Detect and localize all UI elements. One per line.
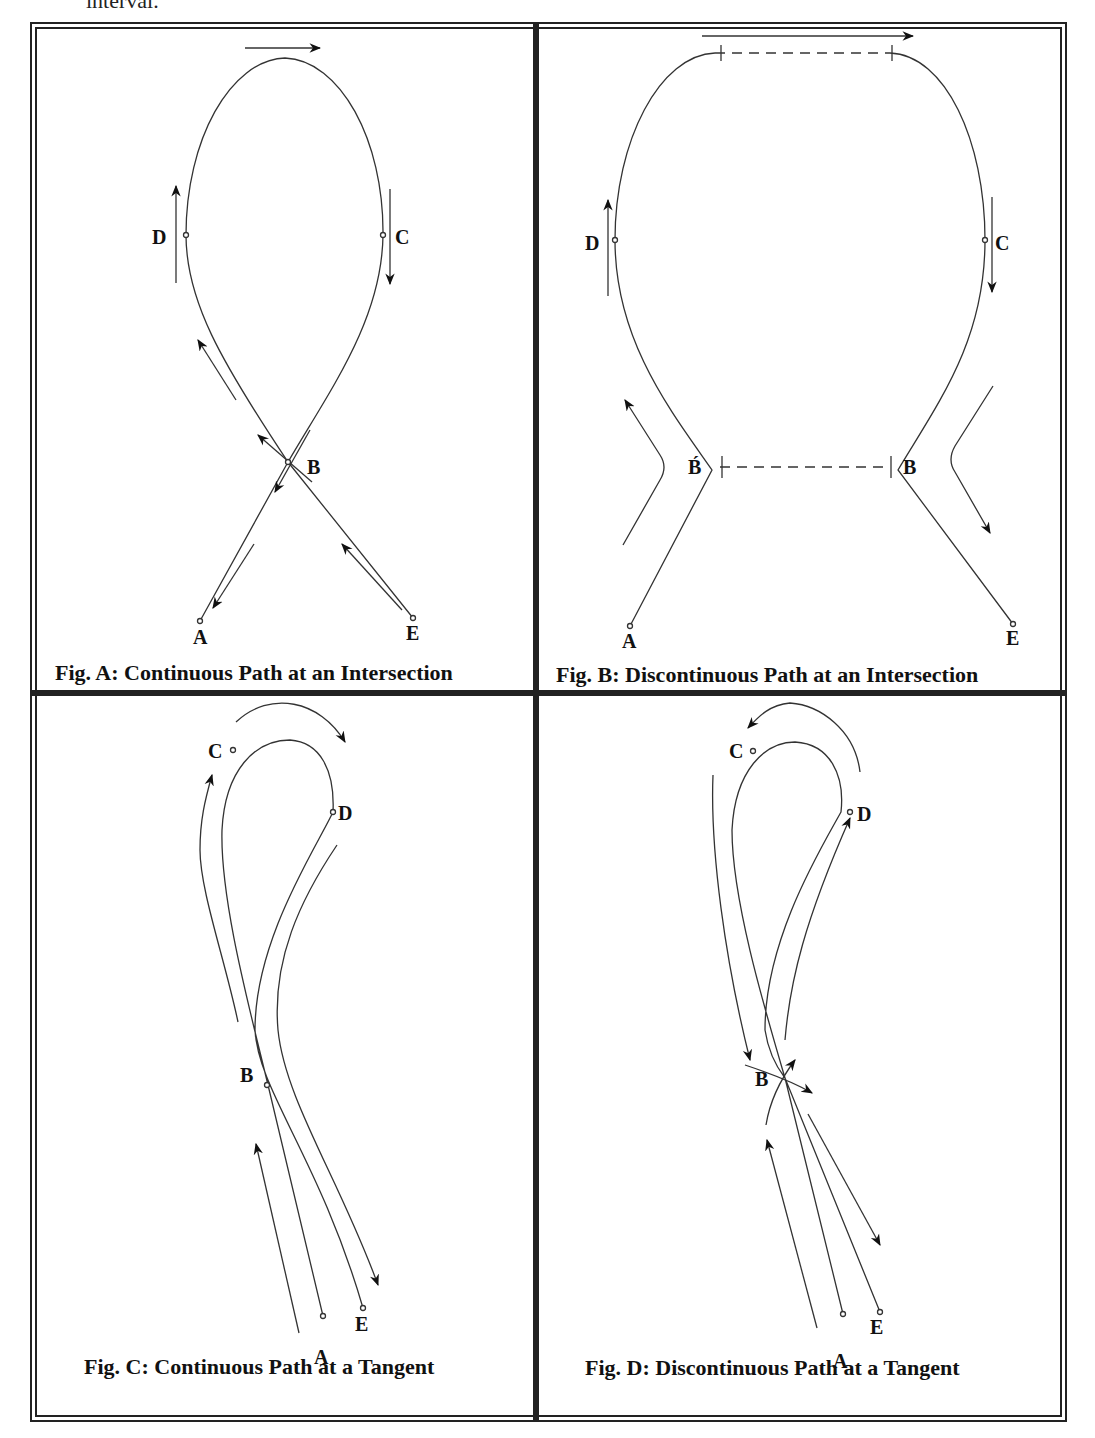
fig-b-label-c: C — [995, 232, 1009, 255]
fig-c-caption: Fig. C: Continuous Path at a Tangent — [84, 1354, 434, 1380]
fig-b-caption: Fig. B: Discontinuous Path at an Interse… — [556, 662, 978, 688]
fig-a-path — [176, 48, 416, 624]
fig-a-label-c: C — [395, 226, 409, 249]
fig-c-path — [200, 703, 378, 1333]
fig-a-caption: Fig. A: Continuous Path at an Intersecti… — [55, 660, 453, 686]
fig-b-label-a: A — [622, 630, 636, 653]
fig-c-label-c: C — [208, 740, 222, 763]
fig-b-path — [608, 36, 1016, 629]
fig-d-label-c: C — [729, 740, 743, 763]
fig-b-label-d: D — [585, 232, 599, 255]
fig-a-label-a: A — [193, 626, 207, 649]
fig-a-label-d: D — [152, 226, 166, 249]
fig-c-label-e: E — [355, 1313, 368, 1336]
fig-c-label-d: D — [338, 802, 352, 825]
fig-b-label-e: E — [1006, 627, 1019, 650]
fig-d-label-b: B — [755, 1068, 768, 1091]
diagram-canvas — [0, 0, 1095, 1438]
fig-b-label-b: B — [903, 456, 916, 479]
fig-d-label-d: D — [857, 803, 871, 826]
fig-a-label-b: B — [307, 456, 320, 479]
fig-c-label-b: B — [240, 1064, 253, 1087]
fig-d-caption: Fig. D: Discontinuous Path at a Tangent — [585, 1355, 960, 1381]
fig-d-label-e: E — [870, 1316, 883, 1339]
fig-d-path — [713, 703, 883, 1328]
fig-b-label-b-prime: B́ — [688, 456, 701, 479]
fig-a-label-e: E — [406, 622, 419, 645]
